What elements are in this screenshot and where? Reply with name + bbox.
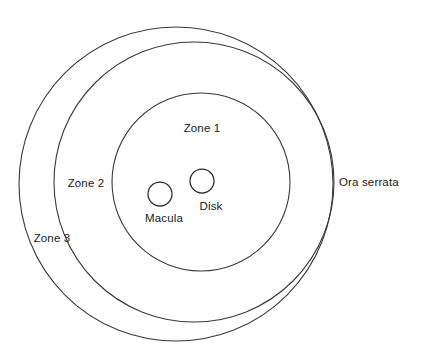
label-zone-2: Zone 2 [68,177,105,190]
label-zone-1: Zone 1 [184,122,221,135]
label-zone-3: Zone 3 [34,232,71,245]
zone-3-boundary-circle [19,27,333,341]
retinal-zones-diagram: Zone 1 Zone 2 Zone 3 Ora serrata Disk Ma… [0,0,423,364]
optic-disk-circle [190,169,214,193]
macula-circle [148,182,172,206]
label-disk: Disk [200,200,223,213]
zone-1-boundary-circle [112,93,290,271]
label-ora-serrata: Ora serrata [339,176,399,189]
label-macula: Macula [145,212,183,225]
